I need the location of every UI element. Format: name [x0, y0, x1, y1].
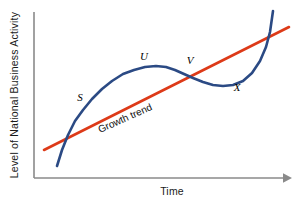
growth-trend-line [44, 27, 289, 150]
business-cycle-chart: Level of National Business Activity Time… [0, 0, 299, 199]
y-axis-title: Level of National Business Activity [8, 11, 20, 178]
chart-canvas: Level of National Business Activity Time… [0, 0, 299, 199]
x-axis-title: Time [160, 185, 184, 197]
curve-label-s: S [77, 91, 83, 103]
curve-label-u: U [140, 50, 149, 62]
curve-label-x: X [233, 81, 242, 93]
curve-label-v: V [187, 54, 195, 66]
x-axis-arrow-icon [283, 173, 292, 183]
